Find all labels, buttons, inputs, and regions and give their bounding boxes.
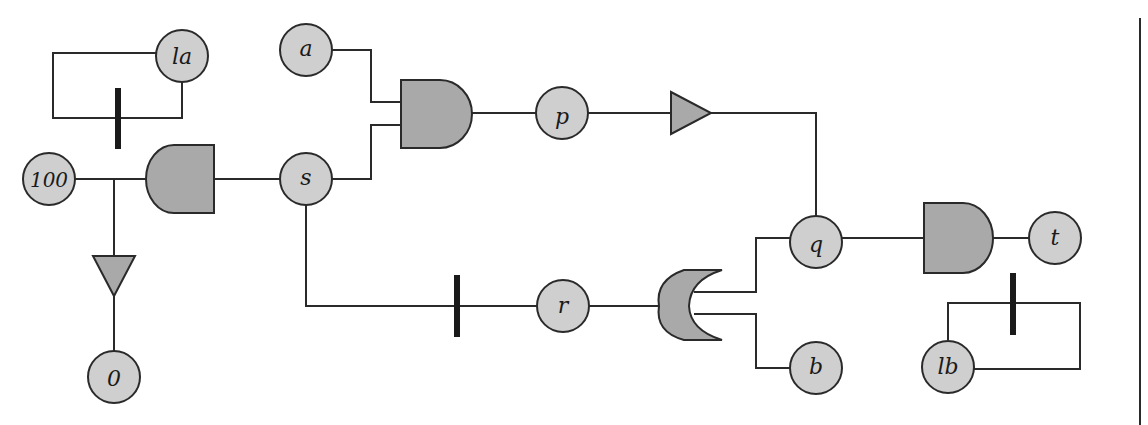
node-label: 100	[30, 168, 68, 192]
wire-or-to-q	[694, 238, 790, 292]
node-label: lb	[937, 354, 958, 379]
node-label: s	[300, 165, 311, 190]
buffer-triangle-right	[671, 92, 711, 134]
node-lb[interactable]: lb	[922, 341, 974, 393]
node-label: b	[809, 354, 823, 379]
node-p[interactable]: p	[536, 87, 588, 139]
or-gate-split	[659, 270, 722, 340]
inhibitor-bar-la	[115, 88, 121, 149]
node-s[interactable]: s	[280, 153, 332, 205]
and-gate-2	[924, 203, 993, 273]
node-t[interactable]: t	[1029, 212, 1081, 264]
node-label: a	[299, 36, 312, 61]
and-gate-1	[401, 80, 472, 148]
node-label: q	[809, 232, 823, 257]
node-q[interactable]: q	[790, 216, 842, 268]
node-100[interactable]: 100	[23, 153, 75, 205]
node-b[interactable]: b	[790, 342, 842, 394]
wire-buffer-to-q	[711, 113, 816, 216]
inhibitor-bar-s-r	[454, 275, 460, 337]
circuit-diagram: la a 100 s p 0 r q b t lb	[0, 0, 1148, 425]
node-0[interactable]: 0	[88, 351, 140, 403]
node-label: 0	[107, 366, 121, 391]
node-la[interactable]: la	[156, 30, 208, 82]
wire-s-to-and1	[332, 125, 401, 179]
node-label: p	[555, 104, 569, 129]
buffer-triangle-down	[93, 256, 135, 296]
node-label: t	[1051, 225, 1060, 250]
and-gate-reversed	[146, 145, 214, 213]
wire-a-to-and1	[332, 50, 401, 102]
node-a[interactable]: a	[280, 24, 332, 76]
node-r[interactable]: r	[537, 280, 589, 332]
node-label: r	[558, 293, 570, 318]
inhibitor-bar-lb	[1010, 273, 1016, 335]
wire-s-to-r	[306, 205, 537, 306]
node-label: la	[172, 44, 192, 69]
